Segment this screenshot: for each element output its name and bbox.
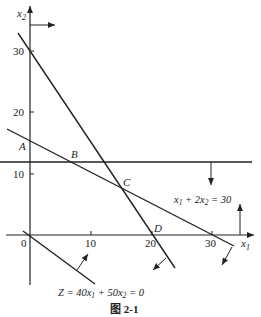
constraint-arrow [222,247,232,265]
point-C: C [123,176,131,188]
objective-arrow [77,254,88,270]
y-tick-10: 10 [13,168,25,180]
objective-label: Z = 40x1 + 50x2 = 0 [58,287,145,300]
point-D: D [153,222,162,234]
x-axis-label: x1 [240,237,250,252]
y-tick-30: 30 [13,45,25,57]
x-tick-10: 10 [85,237,97,249]
constraint-label: x1 + 2x2 = 30 [173,194,232,207]
y-axis-label: x2 [16,7,26,22]
lp-graph: x2 x1 30 20 10 0 10 20 30 A B C D x1 + 2… [0,0,261,317]
point-B: B [71,148,78,160]
point-A: A [18,140,26,152]
constraint-2x1-x2 [18,33,175,268]
x-tick-30: 30 [205,237,217,249]
x-tick-20: 20 [145,237,157,249]
figure-caption: 图 2-1 [110,303,138,315]
y-tick-20: 20 [13,106,25,118]
constraint-arrow-2 [153,258,166,270]
x-tick-0: 0 [21,237,27,249]
